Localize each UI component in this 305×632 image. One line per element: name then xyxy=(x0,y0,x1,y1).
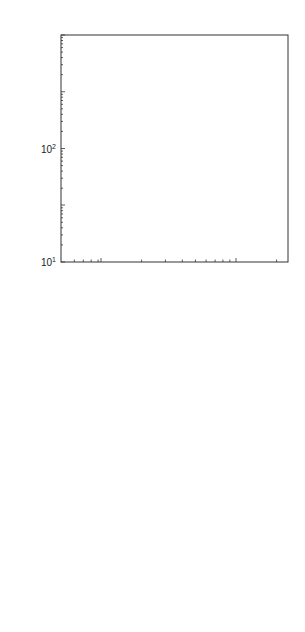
chart-a-y-tick-labels: 101 102 xyxy=(41,143,56,269)
svg-text:101: 101 xyxy=(41,256,56,268)
chart-a-frame xyxy=(61,35,288,262)
chart-a-y-ticks xyxy=(61,35,65,262)
svg-text:102: 102 xyxy=(41,143,56,155)
chart-a-x-ticks xyxy=(74,258,276,262)
chart-a: 101 102 xyxy=(41,35,288,268)
figure: 101 102 xyxy=(0,0,305,632)
